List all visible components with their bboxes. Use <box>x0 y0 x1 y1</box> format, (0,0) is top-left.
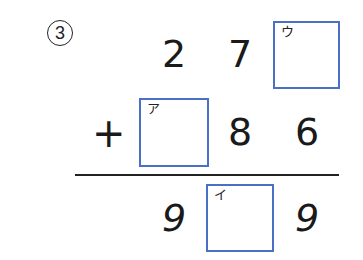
box-label-a: ア <box>147 102 160 116</box>
result-digit-hundreds: 9 <box>159 198 189 238</box>
answer-box-i[interactable]: イ <box>206 184 274 252</box>
box-label-i: イ <box>214 188 227 202</box>
box-label-u: ウ <box>281 25 294 39</box>
answer-box-a[interactable]: ア <box>139 98 209 167</box>
row1-digit-hundreds: 2 <box>159 34 189 74</box>
row2-digit-tens: 8 <box>225 112 255 152</box>
answer-box-u[interactable]: ウ <box>273 21 340 89</box>
result-digit-ones: 9 <box>292 198 322 238</box>
sum-line <box>75 174 339 176</box>
row1-digit-tens: 7 <box>225 34 255 74</box>
problem-number-circled: 3 <box>47 20 73 46</box>
row2-digit-ones: 6 <box>292 112 322 152</box>
plus-sign: + <box>92 114 122 154</box>
